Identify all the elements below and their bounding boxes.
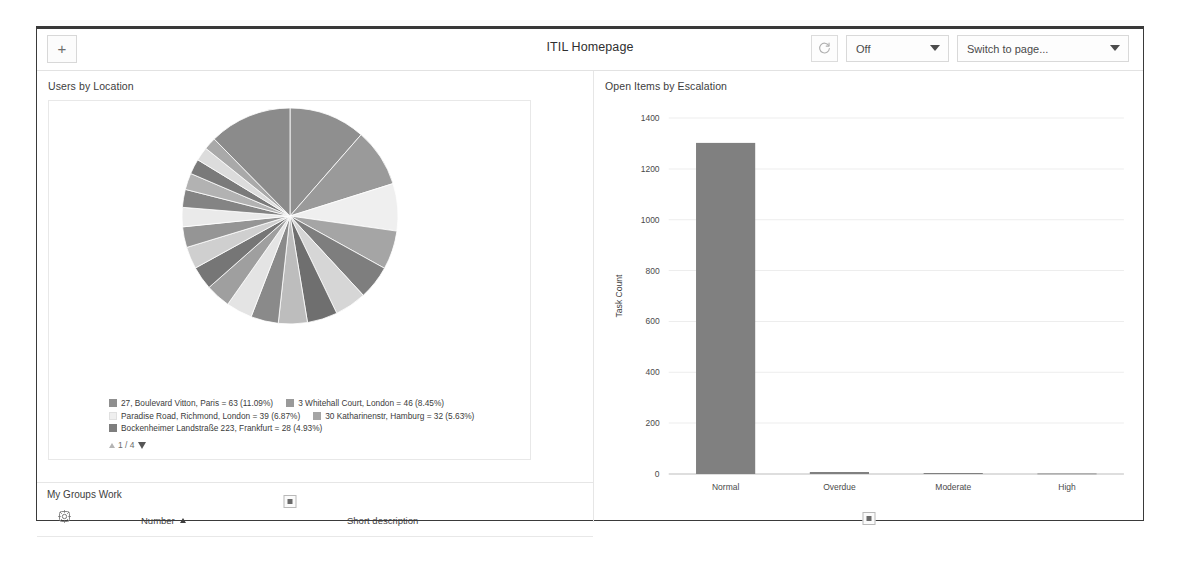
legend-swatch (109, 412, 117, 420)
pie-chart[interactable] (180, 105, 400, 327)
y-tick-label: 1200 (641, 164, 660, 174)
legend-prev-page-icon[interactable] (109, 443, 115, 448)
groups-table-header: Number Short description (37, 509, 593, 537)
gear-icon[interactable] (57, 509, 72, 528)
y-axis-title: Task Count (614, 274, 624, 317)
bar[interactable] (924, 473, 983, 474)
open-items-by-escalation-widget: 0200400600800100012001400 NormalOverdueM… (606, 100, 1132, 510)
legend-swatch (286, 399, 294, 407)
refresh-interval-value: Off (847, 43, 870, 55)
header-controls: Off Switch to page... (811, 35, 1129, 62)
bar-chart-y-axis-title: Task Count (614, 274, 624, 317)
legend-label: Bockenheimer Landstraße 223, Frankfurt =… (121, 422, 322, 435)
legend-swatch (313, 412, 321, 420)
y-tick-label: 600 (645, 316, 659, 326)
legend-item[interactable]: 3 Whitehall Court, London = 46 (8.45%) (286, 397, 444, 410)
column-header-label: Short description (347, 515, 418, 526)
column-header-label: Number (141, 515, 175, 526)
users-by-location-widget: 27, Boulevard Vitton, Paris = 63 (11.09%… (48, 100, 531, 460)
legend-item[interactable]: Bockenheimer Landstraße 223, Frankfurt =… (109, 422, 322, 435)
y-tick-label: 1000 (641, 215, 660, 225)
dashboard-column-right: Open Items by Escalation 020040060080010… (594, 71, 1143, 522)
legend-row: 27, Boulevard Vitton, Paris = 63 (11.09%… (109, 397, 509, 410)
bar-widget-title: Open Items by Escalation (594, 71, 1143, 92)
y-tick-label: 400 (645, 367, 659, 377)
y-tick-label: 0 (655, 469, 660, 479)
my-groups-work-widget: My Groups Work Number Short descriptio (37, 482, 593, 522)
legend-swatch (109, 399, 117, 407)
legend-pager: 1 / 4 (109, 439, 509, 452)
y-tick-label: 800 (645, 266, 659, 276)
pie-chart-canvas (49, 101, 530, 381)
bar[interactable] (696, 143, 755, 474)
x-tick-label: Moderate (935, 482, 971, 492)
dashboard-column-left: Users by Location 27, Boulevard Vitton, … (37, 71, 594, 522)
bar[interactable] (810, 472, 869, 474)
refresh-interval-select[interactable]: Off (846, 35, 949, 62)
pie-legend: 27, Boulevard Vitton, Paris = 63 (11.09%… (109, 397, 509, 451)
refresh-icon[interactable] (811, 35, 838, 62)
bar-chart-y-tick-labels: 0200400600800100012001400 (641, 113, 660, 479)
legend-item[interactable]: 30 Katharinenstr, Hamburg = 32 (5.63%) (313, 410, 474, 423)
legend-next-page-icon[interactable] (138, 442, 146, 449)
dashboard-header: + ITIL Homepage Off Switch to page... (37, 29, 1143, 71)
column-header-number[interactable]: Number (141, 515, 186, 526)
legend-row: Bockenheimer Landstraße 223, Frankfurt =… (109, 422, 509, 435)
legend-label: Paradise Road, Richmond, London = 39 (6.… (121, 410, 300, 423)
legend-row: Paradise Road, Richmond, London = 39 (6.… (109, 410, 509, 423)
legend-page-indicator: 1 / 4 (118, 439, 135, 452)
bar-chart[interactable]: 0200400600800100012001400 NormalOverdueM… (606, 104, 1132, 508)
bar-chart-bars (696, 143, 1097, 474)
y-tick-label: 1400 (641, 113, 660, 123)
legend-item[interactable]: Paradise Road, Richmond, London = 39 (6.… (109, 410, 300, 423)
bar-chart-x-tick-labels: NormalOverdueModerateHigh (712, 482, 1076, 492)
x-tick-label: High (1058, 482, 1076, 492)
chevron-down-icon (930, 45, 940, 51)
x-tick-label: Overdue (823, 482, 856, 492)
chevron-down-icon (1110, 45, 1120, 51)
page-switcher-select[interactable]: Switch to page... (957, 35, 1129, 62)
legend-item[interactable]: 27, Boulevard Vitton, Paris = 63 (11.09%… (109, 397, 273, 410)
pie-widget-title: Users by Location (37, 71, 593, 92)
page-switcher-value: Switch to page... (958, 43, 1048, 55)
sort-ascending-icon (180, 518, 186, 523)
dashboard-window: + ITIL Homepage Off Switch to page... U (36, 26, 1144, 521)
bar[interactable] (1037, 474, 1096, 475)
dashboard-body: Users by Location 27, Boulevard Vitton, … (37, 71, 1143, 522)
legend-label: 30 Katharinenstr, Hamburg = 32 (5.63%) (325, 410, 474, 423)
column-header-short-description[interactable]: Short description (347, 515, 418, 526)
x-tick-label: Normal (712, 482, 739, 492)
bar-expand-button[interactable] (863, 512, 876, 525)
legend-label: 27, Boulevard Vitton, Paris = 63 (11.09%… (121, 397, 273, 410)
groups-widget-title: My Groups Work (37, 483, 593, 500)
legend-swatch (109, 424, 117, 432)
y-tick-label: 200 (645, 418, 659, 428)
legend-label: 3 Whitehall Court, London = 46 (8.45%) (298, 397, 444, 410)
